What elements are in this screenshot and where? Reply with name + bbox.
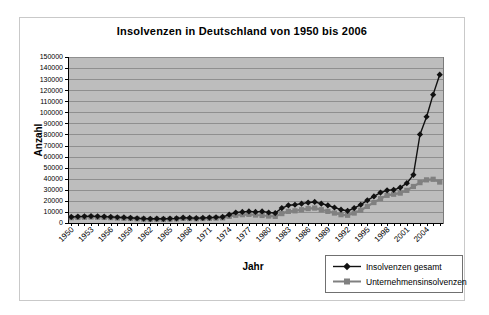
- x-tick-label: 1983: [274, 225, 293, 244]
- data-point-unternehmen: [365, 204, 370, 209]
- y-tick-label: 140000: [40, 64, 63, 71]
- x-tick-label: 1968: [175, 225, 194, 244]
- y-tick-label: 20000: [44, 197, 64, 204]
- y-tick-label: 110000: [40, 98, 63, 105]
- data-point-unternehmen: [352, 210, 357, 215]
- x-axis-title: Jahr: [242, 261, 263, 272]
- plot-background: [68, 57, 443, 223]
- x-tick-label: 1995: [353, 225, 372, 244]
- x-tick-label: 1992: [333, 225, 352, 244]
- x-tick-label: 2001: [392, 225, 411, 244]
- x-tick-label: 1989: [313, 225, 332, 244]
- data-point-unternehmen: [431, 177, 436, 182]
- data-point-unternehmen: [411, 184, 416, 189]
- chart-canvas: 0100002000030000400005000060000700008000…: [0, 0, 489, 315]
- x-tick-label: 1986: [294, 225, 313, 244]
- data-point-unternehmen: [292, 208, 297, 213]
- data-point-unternehmen: [404, 188, 409, 193]
- legend-square-marker-icon: [333, 277, 361, 286]
- data-point-unternehmen: [338, 212, 343, 217]
- x-tick-label: 1998: [373, 225, 392, 244]
- legend-entry-unternehmen: Unternehmensinsolvenzen: [333, 274, 460, 289]
- x-tick-label: 1950: [57, 225, 76, 244]
- chart-title: Insolvenzen in Deutschland von 1950 bis …: [19, 25, 465, 37]
- y-tick-label: 40000: [44, 175, 64, 182]
- y-tick-label: 80000: [44, 131, 64, 138]
- y-tick-label: 150000: [40, 53, 63, 60]
- y-tick-label: 90000: [44, 120, 64, 127]
- y-tick-label: 10000: [44, 208, 64, 215]
- data-point-unternehmen: [358, 208, 363, 213]
- x-tick-label: 1971: [195, 225, 214, 244]
- data-point-unternehmen: [306, 206, 311, 211]
- y-tick-label: 130000: [40, 76, 63, 83]
- data-point-unternehmen: [319, 207, 324, 212]
- data-point-unternehmen: [371, 200, 376, 205]
- x-tick-label: 1974: [215, 225, 234, 244]
- data-point-unternehmen: [332, 210, 337, 215]
- y-tick-label: 30000: [44, 186, 64, 193]
- data-point-unternehmen: [279, 211, 284, 216]
- y-axis-title: Anzahl: [33, 124, 44, 157]
- legend-entry-gesamt: Insolvenzen gesamt: [333, 259, 460, 274]
- legend-box: Insolvenzen gesamt Unternehmensinsolvenz…: [325, 255, 463, 293]
- data-point-unternehmen: [299, 207, 304, 212]
- legend-label-unternehmen: Unternehmensinsolvenzen: [366, 277, 467, 287]
- legend-label-gesamt: Insolvenzen gesamt: [366, 262, 442, 272]
- x-tick-label: 1956: [96, 225, 115, 244]
- y-tick-label: 60000: [44, 153, 64, 160]
- x-tick-label: 1959: [116, 225, 135, 244]
- data-point-unternehmen: [384, 193, 389, 198]
- y-tick-label: 0: [59, 219, 63, 226]
- x-tick-label: 1962: [136, 225, 155, 244]
- data-point-unternehmen: [417, 180, 422, 185]
- x-tick-label: 1977: [234, 225, 253, 244]
- x-tick-label: 1980: [254, 225, 273, 244]
- y-tick-label: 70000: [44, 142, 64, 149]
- y-tick-label: 120000: [40, 87, 63, 94]
- data-point-unternehmen: [398, 191, 403, 196]
- data-point-unternehmen: [325, 209, 330, 214]
- data-point-unternehmen: [378, 196, 383, 201]
- x-tick-label: 1965: [155, 225, 174, 244]
- data-point-unternehmen: [437, 179, 442, 184]
- legend-diamond-marker-icon: [333, 262, 361, 271]
- data-point-unternehmen: [424, 177, 429, 182]
- y-tick-label: 100000: [40, 109, 63, 116]
- data-point-unternehmen: [312, 205, 317, 210]
- y-tick-label: 50000: [44, 164, 64, 171]
- x-tick-label: 1953: [76, 225, 95, 244]
- data-point-unternehmen: [286, 209, 291, 214]
- x-tick-label: 2004: [412, 225, 431, 244]
